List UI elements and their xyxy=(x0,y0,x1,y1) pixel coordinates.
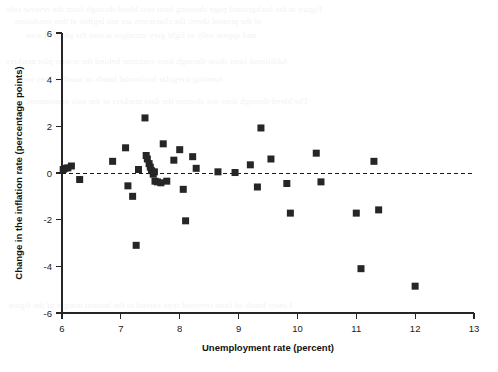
data-point-marker xyxy=(122,144,129,151)
x-tick-label: 8 xyxy=(177,323,182,334)
scatter-plot-figure: Figure in the background page showing fa… xyxy=(0,0,498,372)
x-tick-label: 13 xyxy=(469,323,480,334)
y-tick-label: 4 xyxy=(47,74,52,85)
data-point-marker xyxy=(182,217,189,224)
data-point-marker xyxy=(189,153,196,160)
x-axis-title: Unemployment rate (percent) xyxy=(202,342,334,353)
data-point-marker xyxy=(141,114,148,121)
data-point-marker xyxy=(214,168,221,175)
x-tick-label: 11 xyxy=(351,323,361,334)
data-point-marker xyxy=(163,178,170,185)
plot-canvas: 6420-2-4-6678910111213Unemployment rate … xyxy=(0,0,498,372)
data-point-marker xyxy=(283,180,290,187)
data-point-marker xyxy=(151,168,158,175)
data-point-marker xyxy=(313,150,320,157)
data-point-marker xyxy=(124,182,131,189)
x-tick-label: 9 xyxy=(236,323,241,334)
y-axis-title: Change in the inflation rate (percentage… xyxy=(13,66,24,279)
y-tick-label: -6 xyxy=(44,308,52,319)
data-point-marker xyxy=(232,169,239,176)
data-point-marker xyxy=(160,140,167,147)
data-point-marker xyxy=(193,165,200,172)
data-point-marker xyxy=(257,124,264,131)
data-point-marker xyxy=(317,178,324,185)
y-tick-label: 0 xyxy=(47,168,52,179)
data-point-marker xyxy=(357,265,364,272)
x-tick-label: 10 xyxy=(292,323,303,334)
data-point-marker xyxy=(133,242,140,249)
data-point-marker xyxy=(76,176,83,183)
x-tick-label: 7 xyxy=(118,323,123,334)
y-tick-label: -2 xyxy=(44,214,52,225)
data-point-marker xyxy=(129,193,136,200)
data-point-marker xyxy=(375,206,382,213)
data-point-marker xyxy=(176,146,183,153)
data-point-marker xyxy=(412,283,419,290)
data-point-marker xyxy=(180,186,187,193)
data-point-marker xyxy=(109,158,116,165)
data-point-marker xyxy=(267,156,274,163)
data-point-marker xyxy=(247,161,254,168)
x-tick-label: 6 xyxy=(59,323,64,334)
y-tick-label: -4 xyxy=(44,261,52,272)
data-point-marker xyxy=(287,210,294,217)
data-point-marker xyxy=(68,163,75,170)
data-point-marker xyxy=(135,166,142,173)
y-tick-label: 2 xyxy=(47,121,52,132)
data-point-marker xyxy=(370,158,377,165)
y-tick-label: 6 xyxy=(47,28,52,39)
data-point-marker xyxy=(170,157,177,164)
data-point-marker xyxy=(353,210,360,217)
x-tick-label: 12 xyxy=(410,323,421,334)
data-point-marker xyxy=(254,184,261,191)
